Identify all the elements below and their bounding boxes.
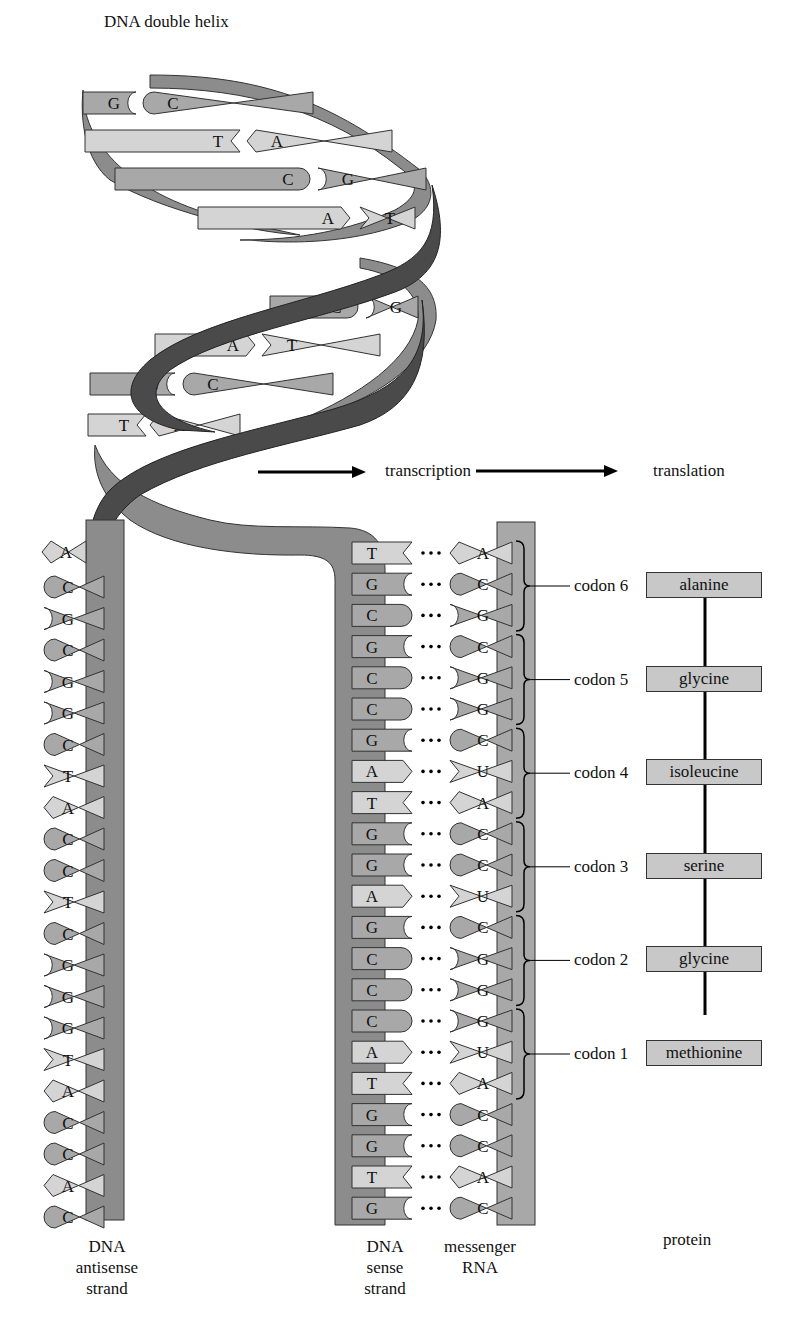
mrna-base-0-letter: A — [477, 544, 490, 563]
sense-base-3 — [352, 636, 412, 658]
codon-label: codon 2 — [574, 950, 628, 970]
antisense-base-16-letter: A — [62, 1082, 75, 1101]
codon-label: codon 1 — [574, 1044, 628, 1064]
hydrogen-bond-dot — [437, 1206, 441, 1210]
sense-base-9-letter: G — [366, 825, 378, 844]
mrna-base-6-letter: C — [477, 731, 488, 750]
hydrogen-bond-dot — [437, 707, 441, 711]
codon-label: codon 3 — [574, 857, 628, 877]
diagram-title: DNA double helix — [104, 12, 229, 32]
sense-base-6-letter: G — [366, 731, 378, 750]
sense-base-5-letter: C — [366, 700, 377, 719]
label-line: strand — [62, 1278, 152, 1299]
sense-base-4-letter: C — [366, 669, 377, 688]
helix-base-1-right — [247, 130, 392, 152]
hydrogen-bond-dot — [429, 1113, 433, 1117]
hydrogen-bond-dot — [437, 738, 441, 742]
antisense-base-12-letter: G — [62, 956, 74, 975]
sense-base-8-letter: T — [367, 794, 378, 813]
amino-acid-box: glycine — [646, 666, 762, 692]
sense-base-7 — [352, 760, 412, 782]
hydrogen-bond-dot — [421, 801, 425, 805]
hydrogen-bond-dot — [429, 1206, 433, 1210]
hydrogen-bond-dot — [429, 863, 433, 867]
antisense-base-5-letter: C — [62, 736, 73, 755]
arrow-head-icon — [604, 465, 618, 477]
sense-base-1 — [352, 573, 412, 595]
antisense-base-7-letter: A — [62, 799, 75, 818]
hydrogen-bond-dot — [437, 1082, 441, 1086]
antisense-base-0-letter: C — [62, 578, 73, 597]
hydrogen-bond-dot — [421, 645, 425, 649]
hydrogen-bond-dot — [421, 863, 425, 867]
helix-base-3-right-letter: T — [385, 209, 396, 228]
sense-base-13-letter: C — [366, 950, 377, 969]
hydrogen-bond-dot — [429, 582, 433, 586]
sense-base-9 — [352, 823, 412, 845]
antisense-base-11-letter: C — [62, 925, 73, 944]
mrna-base-16-letter: U — [477, 1043, 489, 1062]
hydrogen-bond-dot — [429, 988, 433, 992]
hydrogen-bond-dot — [421, 1082, 425, 1086]
sense-base-14-letter: C — [366, 981, 377, 1000]
sense-base-16-letter: A — [366, 1043, 379, 1062]
antisense-base-20-letter: C — [62, 1208, 73, 1227]
antisense-base-13-letter: G — [62, 988, 74, 1007]
hydrogen-bond-dot — [437, 1113, 441, 1117]
antisense-base-6 — [44, 765, 104, 787]
mrna-base-1-letter: C — [477, 575, 488, 594]
arrow-head-icon — [352, 466, 366, 478]
hydrogen-bond-dot — [437, 582, 441, 586]
sense-base-10 — [352, 854, 412, 876]
antisense-strand-label: DNA antisense strand — [62, 1236, 152, 1299]
mrna-base-9-letter: C — [477, 825, 488, 844]
hydrogen-bond-dot — [429, 738, 433, 742]
amino-acid-box: serine — [646, 853, 762, 879]
sense-base-20 — [352, 1166, 412, 1188]
helix-base-2-right — [318, 168, 426, 190]
hydrogen-bond-dot — [421, 1113, 425, 1117]
hydrogen-bond-dot — [429, 551, 433, 555]
mrna-base-12-letter: C — [477, 918, 488, 937]
sense-base-16 — [352, 1041, 412, 1063]
helix-base-1-left-letter: T — [213, 132, 224, 151]
antisense-base-10 — [44, 891, 104, 913]
hydrogen-bond-dot — [437, 614, 441, 618]
codon-label: codon 6 — [574, 576, 628, 596]
hydrogen-bond-dot — [429, 1050, 433, 1054]
label-line: messenger — [430, 1236, 530, 1257]
hydrogen-bond-dot — [437, 770, 441, 774]
sense-base-6 — [352, 729, 412, 751]
amino-acid-box: glycine — [646, 946, 762, 972]
hydrogen-bond-dot — [421, 988, 425, 992]
sense-base-19 — [352, 1135, 412, 1157]
antisense-base-8-letter: C — [62, 830, 73, 849]
mrna-base-5-letter: G — [477, 700, 489, 719]
label-line: DNA — [350, 1236, 420, 1257]
sense-base-13 — [352, 948, 412, 970]
sense-base-11-letter: A — [366, 887, 379, 906]
label-line: strand — [350, 1278, 420, 1299]
hydrogen-bond-dot — [429, 957, 433, 961]
hydrogen-bond-dot — [429, 1144, 433, 1148]
mrna-base-18-letter: C — [477, 1106, 488, 1125]
hydrogen-bond-dot — [429, 1082, 433, 1086]
hydrogen-bond-dot — [437, 645, 441, 649]
hydrogen-bond-dot — [437, 832, 441, 836]
hydrogen-bond-dot — [429, 801, 433, 805]
mrna-base-2-letter: G — [477, 606, 489, 625]
hydrogen-bond-dot — [437, 988, 441, 992]
mrna-base-19-letter: C — [477, 1137, 488, 1156]
sense-base-17-letter: T — [367, 1074, 378, 1093]
hydrogen-bond-dot — [421, 1050, 425, 1054]
hydrogen-bond-dot — [421, 551, 425, 555]
mrna-base-13-letter: G — [477, 950, 489, 969]
hydrogen-bond-dot — [429, 926, 433, 930]
sense-base-20-letter: T — [367, 1168, 378, 1187]
sense-base-10-letter: G — [366, 856, 378, 875]
hydrogen-bond-dot — [421, 926, 425, 930]
helix-base-2-left-letter: C — [282, 170, 293, 189]
codon-label: codon 4 — [574, 763, 628, 783]
antisense-base-17-letter: C — [62, 1114, 73, 1133]
sense-base-15-letter: C — [366, 1012, 377, 1031]
